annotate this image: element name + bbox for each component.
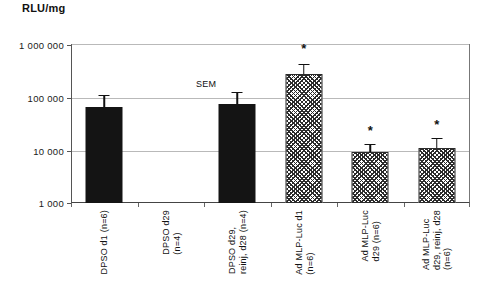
bar-slot-dpso-d29-reinj-d28: SEM [204,44,271,203]
error-cap-ad-mlp-luc-d29-reinj-d28 [431,138,442,140]
xtick-label-line: reinj, d28 (n=4) [237,210,248,274]
significance-star-ad-mlp-luc-d29: * [368,124,373,137]
error-cap-ad-mlp-luc-d1 [298,64,309,66]
error-cap-dpso-d1 [99,95,110,97]
error-bar-ad-mlp-luc-d29-reinj-d28 [436,139,438,148]
xtick-label-ad-mlp-luc-d29: Ad MLP-Luc d29 (n=6) [360,210,381,262]
bar-slot-dpso-d1 [71,44,138,203]
xtick-label-dpso-d29-reinj-d28: DPSO d29, reinj, d28 (n=4) [227,210,248,274]
xlabel-slot-4: Ad MLP-Luc d1 (n=6) [271,208,338,292]
sem-annotation: SEM [196,79,216,89]
xtick-label-line: d29, reinj, d28 [432,210,443,270]
xtick-label-line: (n=4) [171,210,182,255]
chart-title: RLU/mg [22,2,65,14]
xlabel-slot-6: Ad MLP-Luc d29, reinj, d28 (n=6) [404,208,471,292]
error-bar-dpso-d1 [104,96,106,107]
bar-slot-ad-mlp-luc-d29-reinj-d28: * [404,44,471,203]
xtick-label-dpso-d1: DPSO d1 (n=6) [99,210,110,274]
ytick-label-10000: 10 000 [33,146,64,157]
xtick-label-dpso-d29: DPSO d29 (n=4) [160,210,181,255]
bar-dpso-d1[interactable] [86,107,123,203]
xtick-label-ad-mlp-luc-d1: Ad MLP-Luc d1 (n=6) [293,210,314,275]
bar-ad-mlp-luc-d29[interactable] [352,152,389,203]
bar-slot-dpso-d29 [138,44,205,203]
xtick-label-ad-mlp-luc-d29-reinj-d28: Ad MLP-Luc d29, reinj, d28 (n=6) [421,210,453,270]
error-bar-ad-mlp-luc-d1 [303,65,305,74]
xlabel-slot-2: DPSO d29 (n=4) [138,208,205,292]
xlabel-slot-1: DPSO d1 (n=6) [71,208,138,292]
xlabel-slot-5: Ad MLP-Luc d29 (n=6) [337,208,404,292]
significance-star-ad-mlp-luc-d1: * [301,42,306,55]
bar-dpso-d29-reinj-d28[interactable] [219,104,256,203]
bar-slot-ad-mlp-luc-d29: * [337,44,404,203]
ytick-label-1000000: 1 000 000 [19,40,64,51]
xlabel-slot-3: DPSO d29, reinj, d28 (n=4) [204,208,271,292]
xtick-label-line: DPSO d29, [227,210,238,274]
significance-star-ad-mlp-luc-d29-reinj-d28: * [434,118,439,131]
error-bar-dpso-d29-reinj-d28 [237,93,239,104]
bars-layer: SEM * * * [71,44,470,203]
error-cap-dpso-d29-reinj-d28 [232,92,243,94]
xtick-label-line: Ad MLP-Luc [421,210,432,270]
xtick-label-line: (n=6) [442,210,453,270]
bar-slot-ad-mlp-luc-d1: * [271,44,338,203]
xtick-label-line: (n=6) [304,210,315,275]
xtick-label-line: Ad MLP-Luc d1 [293,210,304,275]
error-cap-ad-mlp-luc-d29 [365,144,376,146]
ytick-label-1000: 1 000 [39,198,64,209]
bar-ad-mlp-luc-d1[interactable] [285,74,322,203]
bar-ad-mlp-luc-d29-reinj-d28[interactable] [418,148,455,203]
xtick-label-line: DPSO d29 [160,210,171,255]
x-axis-labels: DPSO d1 (n=6) DPSO d29 (n=4) DPSO d29, r… [71,208,470,292]
xtick-label-line: DPSO d1 (n=6) [99,210,110,274]
ytick-label-100000: 100 000 [28,93,64,104]
error-bar-ad-mlp-luc-d29 [370,145,372,152]
xtick-label-line: Ad MLP-Luc [360,210,371,262]
xtick-label-line: d29 (n=6) [370,210,381,262]
